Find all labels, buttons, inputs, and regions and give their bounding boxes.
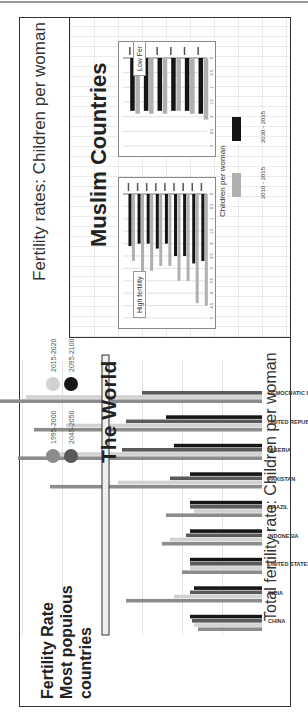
country-label	[156, 47, 158, 55]
bar-2010-2015	[196, 194, 199, 303]
tick-label: 3	[209, 144, 214, 147]
tick-label: 0.5	[209, 69, 214, 75]
bar-1995-2000	[182, 570, 262, 574]
legend-label: 2015-2020	[50, 339, 57, 372]
bar-2045-2050	[122, 448, 262, 452]
bar-2030-2035	[128, 194, 131, 246]
bar-2010-2015	[190, 58, 195, 114]
bar-2010-2015	[204, 58, 209, 120]
bar-2030-2035	[201, 194, 204, 261]
legend-label-2030: 2030 - 2035	[260, 111, 266, 143]
tick-label: 1	[209, 85, 214, 88]
bar-2015-2020	[190, 566, 262, 570]
country-label	[155, 183, 157, 191]
bar-2095-2100	[166, 415, 262, 419]
bar-2010-2015	[149, 58, 154, 114]
bar-2030-2035	[158, 58, 163, 111]
tick-label: 3.5	[209, 277, 214, 283]
legend-label: 2045-2050	[68, 411, 75, 444]
country-label	[128, 183, 130, 191]
bar-2010-2015	[159, 194, 162, 266]
fertility-slide: Fertility Rate Most populous countries C…	[0, 0, 308, 721]
tick-label: 0.5	[209, 203, 214, 209]
tick-label: 2	[209, 242, 214, 245]
bar-2030-2035	[199, 58, 204, 114]
bar-2095-2100	[190, 615, 262, 619]
bar-2010-2015	[163, 58, 168, 114]
bar-2015-2020	[26, 395, 262, 399]
bar-2095-2100	[190, 529, 262, 533]
bar-2010-2015	[176, 58, 181, 111]
tick-label: 0	[209, 192, 214, 195]
bar-2045-2050	[126, 420, 262, 424]
bar-2030-2035	[171, 58, 176, 111]
bar-2015-2020	[46, 452, 262, 456]
bar-2015-2020	[170, 538, 262, 542]
muslim-legend-title: Children per woman	[218, 145, 227, 217]
country-label	[197, 47, 199, 55]
legend-dot-icon	[46, 449, 60, 463]
bar-1995-2000	[198, 627, 262, 631]
bar-1995-2000	[0, 399, 262, 403]
bar-2015-2020	[174, 595, 262, 599]
bar-1995-2000	[50, 485, 262, 489]
bar-2095-2100	[174, 444, 262, 448]
bar-2045-2050	[190, 562, 262, 566]
world-title: The World	[97, 361, 121, 463]
country-label	[173, 183, 175, 191]
tick-label: 3	[209, 267, 214, 270]
low-fertility-chart: 00.511.522.53 Low Fer	[118, 41, 216, 157]
bar-2095-2100	[190, 501, 262, 505]
country-label	[137, 183, 139, 191]
legend-item-2045: 2045-2050	[64, 411, 78, 463]
tick-label: 4	[209, 291, 214, 294]
bar-1995-2000	[126, 599, 262, 603]
country-label	[146, 183, 148, 191]
legend-dot-icon	[46, 377, 60, 391]
country-label	[201, 183, 203, 191]
country-label	[182, 183, 184, 191]
muslim-title: Muslim Countries	[86, 62, 112, 247]
legend-swatch-2010	[232, 173, 241, 197]
bar-2010-2015	[132, 194, 135, 261]
country-label	[170, 47, 172, 55]
bar-2010-2015	[150, 194, 153, 271]
tick-label: 4.5	[209, 302, 214, 308]
bar-2045-2050	[186, 534, 262, 538]
bar-2015-2020	[194, 623, 262, 627]
bar-2095-2100	[190, 558, 262, 562]
tick-label: 5	[209, 316, 214, 319]
slide-title: Fertility rates: Children per woman	[30, 22, 50, 281]
tick-label: 1.5	[209, 228, 214, 234]
bar-2030-2035	[185, 58, 190, 111]
legend-swatch-2030	[232, 117, 241, 141]
bar-2010-2015	[141, 194, 144, 271]
tick-label: 1	[209, 217, 214, 220]
bar-2015-2020	[66, 424, 262, 428]
tick-label: 1.5	[209, 98, 214, 104]
bar-2030-2035	[174, 194, 177, 256]
bar-2010-2015	[205, 194, 208, 306]
muslim-countries-panel: Muslim Countries 00.511.522.533.544.55 H…	[69, 17, 291, 338]
bar-2095-2100	[190, 472, 262, 476]
country-label	[192, 183, 194, 191]
bar-2010-2015	[177, 194, 180, 281]
bar-2030-2035	[192, 194, 195, 263]
legend-item-2095: 2095-2100	[64, 339, 78, 391]
legend-dot-icon	[64, 377, 78, 391]
bar-2030-2035	[165, 194, 168, 244]
bar-2015-2020	[118, 481, 262, 485]
legend-dot-icon	[64, 449, 78, 463]
tick-label: 2.5	[209, 252, 214, 258]
bar-2045-2050	[142, 391, 262, 395]
legend-item-2015: 2015-2020	[46, 339, 60, 391]
country-label	[129, 47, 131, 55]
high-fertility-chart: 00.511.522.533.544.55 High fertility	[118, 177, 216, 329]
tick-label: 0	[209, 56, 214, 59]
legend-label-2010: 2010 - 2015	[260, 167, 266, 199]
legend-label: 1995-2000	[50, 411, 57, 444]
tick-label: 2.5	[209, 128, 214, 134]
legend-label: 2095-2100	[68, 339, 75, 372]
bar-2045-2050	[190, 591, 262, 595]
bar-1995-2000	[162, 542, 262, 546]
